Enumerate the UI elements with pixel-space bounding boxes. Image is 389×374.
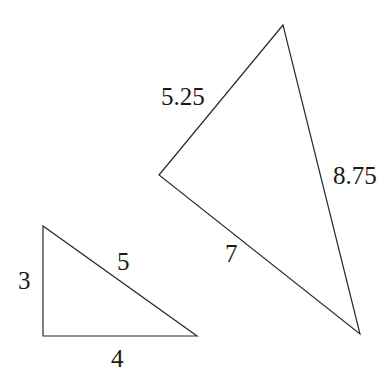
small-triangle-base-label: 4: [111, 346, 124, 371]
small-triangle-hypotenuse-label: 5: [117, 249, 130, 274]
triangles-svg: [0, 0, 389, 374]
large-triangle-right-side-label: 8.75: [333, 163, 377, 188]
large-triangle-lower-left-side-label: 7: [225, 241, 238, 266]
geometry-diagram: 3 5 4 5.25 7 8.75: [0, 0, 389, 374]
large-triangle-upper-left-side-label: 5.25: [161, 84, 205, 109]
small-triangle-vertical-leg-label: 3: [18, 268, 31, 293]
diagram-background: [0, 0, 389, 374]
